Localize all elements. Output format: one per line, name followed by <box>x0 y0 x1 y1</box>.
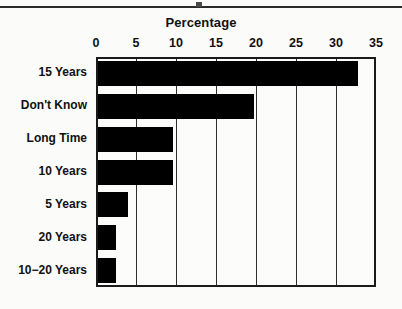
x-tick-label: 25 <box>276 36 316 50</box>
top-rule-artifact <box>196 2 202 7</box>
y-axis-label: 20 Years <box>0 230 87 244</box>
bar <box>98 94 254 119</box>
chart-title: Percentage <box>0 15 402 30</box>
bar <box>98 192 128 217</box>
bar <box>98 258 116 283</box>
x-tick-label: 15 <box>196 36 236 50</box>
plot-area <box>96 57 376 287</box>
y-axis-label: Long Time <box>0 131 87 145</box>
y-axis-label: 5 Years <box>0 197 87 211</box>
x-tick-label: 10 <box>156 36 196 50</box>
y-axis-label: 10 Years <box>0 164 87 178</box>
bar <box>98 160 173 185</box>
x-tick-label: 5 <box>116 36 156 50</box>
y-axis-label: 15 Years <box>0 65 87 79</box>
x-tick-label: 35 <box>356 36 396 50</box>
y-axis-label: 10−20 Years <box>0 263 87 277</box>
bar <box>98 225 116 250</box>
y-axis-category-labels: 15 YearsDon't KnowLong Time10 Years5 Yea… <box>0 57 92 287</box>
y-axis-label: Don't Know <box>0 98 87 112</box>
gridline <box>256 59 257 285</box>
x-axis-tick-labels: 05101520253035 <box>0 36 402 54</box>
bar <box>98 61 358 86</box>
bar-chart-figure: Percentage 05101520253035 15 YearsDon't … <box>0 0 402 309</box>
gridline <box>336 59 337 285</box>
x-tick-label: 0 <box>76 36 116 50</box>
gridline <box>296 59 297 285</box>
bar <box>98 127 173 152</box>
x-tick-label: 30 <box>316 36 356 50</box>
x-tick-label: 20 <box>236 36 276 50</box>
